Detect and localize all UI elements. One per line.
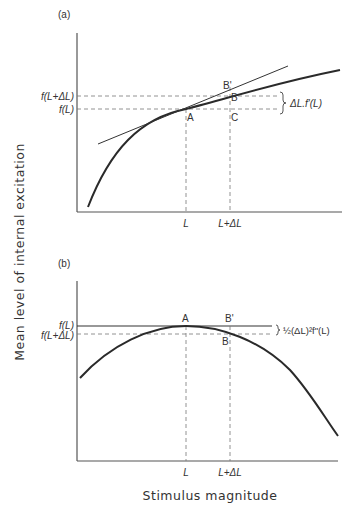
panel-a-ytick-fLdL: f(L+ΔL) [41, 91, 74, 102]
panel-a-brace [280, 92, 286, 114]
panel-b-xtick-LdL: L+ΔL [218, 467, 242, 478]
panel-a: (a) f(L+ΔL) f(L) L L+ΔL A B B' C ΔL.f'(L… [41, 9, 342, 229]
panel-a-tangent [98, 66, 288, 144]
panel-a-xtick-LdL: L+ΔL [218, 218, 242, 229]
panel-a-label: (a) [58, 9, 70, 20]
panel-b-point-B: B [222, 336, 229, 347]
panel-a-point-C: C [231, 112, 238, 123]
panel-b-label: (b) [58, 258, 70, 269]
panel-b-brace [276, 325, 280, 335]
panel-a-point-B: B [231, 92, 238, 103]
panel-a-point-A: A [187, 112, 194, 123]
panel-b-bracket-label: ½(ΔL)²f"(L) [283, 325, 330, 336]
panel-b-point-Bprime: B' [225, 313, 234, 324]
panel-a-bracket-label: ΔL.f'(L) [289, 98, 322, 109]
panel-a-point-Bprime: B' [223, 80, 232, 91]
panel-a-ytick-fL: f(L) [59, 104, 74, 115]
x-axis-label: Stimulus magnitude [143, 488, 278, 503]
panel-b-curve [80, 326, 338, 436]
panel-b-xtick-L: L [183, 467, 189, 478]
panel-a-xtick-L: L [183, 218, 189, 229]
panel-b-point-A: A [182, 313, 189, 324]
panel-b-ytick-fLdL: f(L+ΔL) [41, 330, 74, 341]
panel-b: (b) f(L) f(L+ΔL) L L+ΔL A B' B ½(ΔL)²f"(… [41, 258, 338, 478]
figure: Mean level of internal excitation (a) f(… [0, 0, 354, 515]
panel-a-curve [88, 70, 340, 207]
y-axis-label: Mean level of internal excitation [12, 143, 27, 361]
